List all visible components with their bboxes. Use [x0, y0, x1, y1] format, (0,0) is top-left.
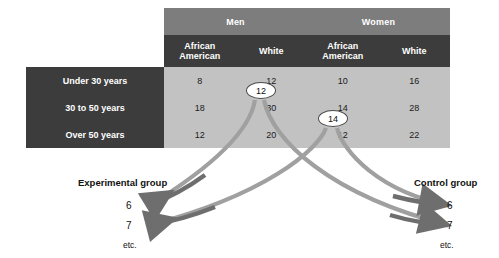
cell-30to50-men-white: 30 — [236, 94, 308, 121]
cell-over50-women-aa: 12 — [307, 121, 379, 148]
subcolumn-header-women-african-american: African American — [307, 35, 379, 67]
cell-over50-women-white: 22 — [379, 121, 451, 148]
table-corner-blank — [26, 8, 164, 35]
row-label-over-50-years: Over 50 years — [26, 121, 164, 148]
stratified-random-assignment-figure: Men Women African American White African… — [0, 0, 499, 258]
subcolumn-label-line2: American — [179, 51, 220, 61]
column-group-header-women: Women — [307, 8, 450, 35]
subcolumn-header-men-african-american: African American — [164, 35, 236, 67]
callout-oval-14: 14 — [318, 110, 348, 127]
subcolumn-label-line2: American — [322, 51, 363, 61]
row-label-30-to-50-years: 30 to 50 years — [26, 94, 164, 121]
cell-under30-women-aa: 10 — [307, 67, 379, 94]
subcolumn-label-line1: African — [327, 41, 358, 51]
subcolumn-header-women-white: White — [379, 35, 451, 67]
experimental-item-6: 6 — [126, 200, 132, 211]
control-item-7: 7 — [447, 220, 453, 231]
flow-tail-experimental-7 — [150, 207, 215, 225]
stratification-table: Men Women African American White African… — [26, 8, 450, 163]
table-row: 30 to 50 years 18 30 14 28 — [26, 94, 450, 121]
cell-30to50-women-white: 28 — [379, 94, 451, 121]
subcolumn-header-men-white: White — [236, 35, 308, 67]
table-header-group-row: Men Women — [26, 8, 450, 35]
flow-tail-control-7 — [390, 215, 448, 225]
cell-30to50-men-aa: 18 — [164, 94, 236, 121]
experimental-group-title: Experimental group — [78, 177, 167, 188]
flow-tail-control-6 — [393, 196, 448, 205]
table-row: Under 30 years 8 12 10 16 — [26, 67, 450, 94]
callout-oval-12: 12 — [246, 82, 276, 99]
cell-under30-women-white: 16 — [379, 67, 451, 94]
data-table: Men Women African American White African… — [26, 8, 450, 148]
row-label-under-30-years: Under 30 years — [26, 67, 164, 94]
table-row: Over 50 years 12 20 12 22 — [26, 121, 450, 148]
table-corner-blank-2 — [26, 35, 164, 67]
column-group-header-men: Men — [164, 8, 307, 35]
experimental-item-7: 7 — [126, 220, 132, 231]
cell-under30-men-aa: 8 — [164, 67, 236, 94]
subcolumn-label-line1: African — [184, 41, 215, 51]
experimental-etc-label: etc. — [123, 240, 137, 250]
control-item-6: 6 — [447, 200, 453, 211]
cell-over50-men-white: 20 — [236, 121, 308, 148]
table-header-sub-row: African American White African American … — [26, 35, 450, 67]
control-group-title: Control group — [414, 177, 477, 188]
cell-over50-men-aa: 12 — [164, 121, 236, 148]
control-etc-label: etc. — [440, 240, 454, 250]
